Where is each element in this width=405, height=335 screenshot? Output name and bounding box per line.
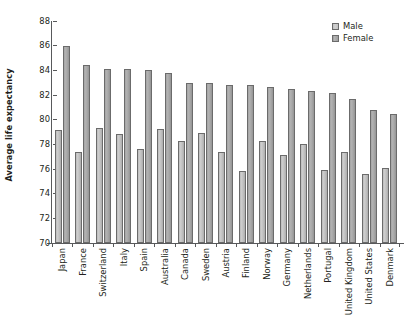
y-axis-tick-label: 70 bbox=[39, 238, 53, 246]
x-axis-label-text: Denmark bbox=[386, 248, 394, 287]
bar-group bbox=[298, 21, 318, 243]
bar-male bbox=[116, 134, 123, 243]
x-axis-label-text: Austria bbox=[222, 248, 230, 278]
bar-female bbox=[63, 46, 70, 243]
bar-group bbox=[339, 21, 359, 243]
y-axis-tick-label: 80 bbox=[39, 115, 53, 123]
x-axis-label: Italy bbox=[113, 247, 133, 333]
bar-female bbox=[165, 73, 172, 243]
legend-label: Female bbox=[343, 34, 373, 42]
bar-group bbox=[359, 21, 379, 243]
x-axis-label-text: Sweden bbox=[201, 248, 209, 281]
bar-female bbox=[308, 91, 315, 243]
bar-male bbox=[382, 168, 389, 243]
bar-group bbox=[195, 21, 215, 243]
bar-male bbox=[75, 152, 82, 243]
bar-female bbox=[145, 70, 152, 243]
x-axis-label: Austria bbox=[216, 247, 236, 333]
bar-female bbox=[186, 83, 193, 243]
bar-female bbox=[288, 89, 295, 243]
x-axis-label: Australia bbox=[154, 247, 174, 333]
x-axis-label: Japan bbox=[52, 247, 72, 333]
female-swatch-icon bbox=[332, 35, 339, 42]
x-axis-label-text: Switzerland bbox=[99, 248, 107, 297]
bar-female bbox=[329, 93, 336, 243]
y-axis-tick-label: 88 bbox=[39, 16, 53, 24]
x-axis-label-text: Netherlands bbox=[304, 248, 312, 299]
bar-male bbox=[362, 174, 369, 243]
y-axis-tick-label: 78 bbox=[39, 140, 53, 148]
x-axis-label: Portugal bbox=[318, 247, 338, 333]
y-axis-tick-label: 82 bbox=[39, 90, 53, 98]
bar-male bbox=[178, 141, 185, 243]
bar-group bbox=[175, 21, 195, 243]
x-axis-label: Norway bbox=[257, 247, 277, 333]
bar-group bbox=[257, 21, 277, 243]
x-axis-label-text: Norway bbox=[263, 248, 271, 280]
x-axis-label: Netherlands bbox=[298, 247, 318, 333]
x-axis-label: United States bbox=[359, 247, 379, 333]
x-axis-label: Canada bbox=[175, 247, 195, 333]
bar-female bbox=[349, 99, 356, 243]
x-axis-label: United Kingdom bbox=[339, 247, 359, 333]
x-axis-label-text: United Kingdom bbox=[345, 248, 353, 315]
x-axis-label: Germany bbox=[277, 247, 297, 333]
bar-male bbox=[198, 133, 205, 243]
bar-male bbox=[259, 141, 266, 243]
bars-layer bbox=[52, 21, 400, 243]
y-axis-title-text: Average life expectancy bbox=[4, 68, 14, 181]
y-axis-tick-label: 86 bbox=[39, 41, 53, 49]
x-axis-label-text: Finland bbox=[242, 248, 250, 278]
bar-male bbox=[341, 152, 348, 243]
bar-female bbox=[226, 85, 233, 243]
bar-male bbox=[218, 152, 225, 243]
male-swatch-icon bbox=[332, 23, 339, 30]
x-axis-label-text: Spain bbox=[140, 248, 148, 271]
bar-group bbox=[154, 21, 174, 243]
y-axis-tick-label: 72 bbox=[39, 214, 53, 222]
bar-group bbox=[380, 21, 400, 243]
chart-legend: MaleFemale bbox=[332, 20, 402, 44]
legend-label: Male bbox=[343, 22, 363, 30]
y-axis-tick-label: 76 bbox=[39, 164, 53, 172]
bar-male bbox=[300, 144, 307, 243]
bar-group bbox=[236, 21, 256, 243]
x-axis-label: Spain bbox=[134, 247, 154, 333]
bar-group bbox=[277, 21, 297, 243]
bar-female bbox=[104, 69, 111, 243]
x-axis-label: Denmark bbox=[380, 247, 400, 333]
bar-male bbox=[239, 171, 246, 243]
bar-group bbox=[216, 21, 236, 243]
x-axis-label: France bbox=[72, 247, 92, 333]
x-axis-label: Switzerland bbox=[93, 247, 113, 333]
bar-female bbox=[267, 87, 274, 243]
y-axis-title: Average life expectancy bbox=[0, 0, 18, 250]
plot-area: 88868482807876747270 bbox=[52, 21, 400, 243]
bar-male bbox=[157, 129, 164, 243]
bar-female bbox=[370, 110, 377, 243]
bar-male bbox=[321, 170, 328, 243]
bar-male bbox=[280, 155, 287, 243]
bar-group bbox=[318, 21, 338, 243]
x-axis-label-text: Australia bbox=[160, 248, 168, 285]
x-axis-label-text: France bbox=[79, 248, 87, 276]
x-axis-label: Finland bbox=[236, 247, 256, 333]
bar-male bbox=[137, 149, 144, 243]
bar-group bbox=[72, 21, 92, 243]
bar-female bbox=[247, 85, 254, 243]
x-axis-label-text: Italy bbox=[119, 248, 127, 266]
x-axis-label-text: Canada bbox=[181, 248, 189, 280]
bar-group bbox=[52, 21, 72, 243]
x-axis-label-text: Portugal bbox=[324, 248, 332, 283]
bar-male bbox=[55, 130, 62, 243]
x-axis-label-text: Japan bbox=[58, 248, 66, 271]
bar-chart-figure: Average life expectancy 8886848280787674… bbox=[0, 0, 405, 335]
x-axis-label: Sweden bbox=[195, 247, 215, 333]
bar-group bbox=[134, 21, 154, 243]
bar-group bbox=[113, 21, 133, 243]
legend-item-male: Male bbox=[332, 20, 402, 32]
bar-male bbox=[96, 128, 103, 243]
x-axis-labels: JapanFranceSwitzerlandItalySpainAustrali… bbox=[52, 247, 400, 333]
bar-female bbox=[206, 83, 213, 243]
legend-item-female: Female bbox=[332, 32, 402, 44]
